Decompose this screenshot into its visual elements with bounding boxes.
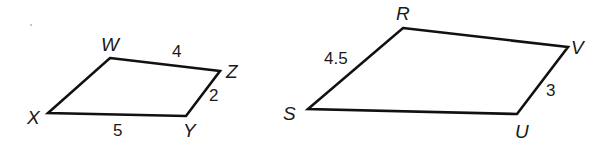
- quadrilateral-rvus-outline: [308, 28, 568, 114]
- vertex-label-y: Y: [183, 120, 197, 141]
- vertex-label-s: S: [283, 103, 296, 124]
- quadrilateral-rvus: R V U S 4.5 3: [283, 3, 586, 142]
- vertex-label-v: V: [571, 37, 586, 58]
- vertex-label-x: X: [26, 107, 41, 128]
- side-length-sr: 4.5: [324, 49, 348, 68]
- quadrilateral-wzyx: W Z Y X 4 2 5: [26, 34, 239, 141]
- side-length-wz: 4: [172, 42, 181, 61]
- vertex-label-r: R: [396, 3, 410, 24]
- vertex-label-z: Z: [225, 61, 239, 82]
- vertex-label-w: W: [101, 34, 121, 55]
- similar-quadrilaterals-diagram: W Z Y X 4 2 5 R V U S 4.5 3: [0, 0, 607, 145]
- side-length-yx: 5: [113, 121, 122, 140]
- quadrilateral-wzyx-outline: [48, 58, 220, 116]
- side-length-vu: 3: [546, 81, 555, 100]
- side-length-zy: 2: [209, 86, 218, 105]
- vertex-label-u: U: [515, 121, 529, 142]
- scan-speck: [30, 24, 32, 26]
